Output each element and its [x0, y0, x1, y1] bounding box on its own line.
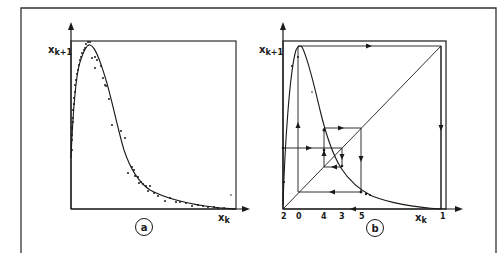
panel-b-x-label-sub: k: [421, 216, 426, 225]
panel-a: [68, 22, 250, 212]
panel-a-data-points: [71, 41, 232, 209]
panel-a-y-label: xk+1: [48, 45, 72, 55]
panel-b-tick-1: 1: [440, 213, 446, 221]
panel-a-y-label-sub: k+1: [54, 48, 72, 57]
panel-a-tag: a: [135, 218, 153, 236]
panel-b-tag: b: [366, 219, 384, 237]
arrow-down-icon: [439, 125, 444, 131]
arrow-left-icon: [331, 165, 337, 170]
panel-b-iterate-points: [282, 56, 371, 196]
arrow-left-icon: [350, 207, 356, 212]
arrow-down-icon: [340, 154, 345, 160]
arrow-right-icon: [338, 126, 344, 131]
panel-b-tick-2: 2: [281, 213, 287, 221]
panel-b-y-label-sub: k+1: [265, 48, 283, 57]
panel-b-tick-3: 3: [339, 213, 345, 221]
panel-a-x-arrow-icon: [242, 206, 250, 212]
panel-a-x-label-sub: k: [224, 216, 229, 225]
panel-b-diagonal: [283, 46, 441, 209]
panel-b-direction-arrows: [296, 44, 444, 212]
panel-a-fitted-curve: [71, 45, 236, 209]
panel-b-x-arrow-icon: [455, 206, 463, 212]
panel-b: [280, 22, 463, 212]
arrow-right-icon: [366, 44, 372, 49]
panel-a-y-arrow-icon: [68, 22, 74, 30]
panel-b-tick-4: 4: [321, 213, 327, 221]
arrow-right-icon: [306, 146, 312, 151]
panel-a-box: [71, 41, 236, 209]
arrow-left-icon: [329, 190, 335, 195]
panel-b-x-label: xk: [415, 213, 427, 223]
panel-b-y-label: xk+1: [259, 45, 283, 55]
arrow-up-icon: [296, 122, 301, 128]
arrow-down-icon: [359, 156, 364, 162]
panel-a-x-label: xk: [218, 213, 230, 223]
panel-b-y-arrow-icon: [280, 22, 286, 30]
panel-b-tick-0: 0: [296, 213, 302, 221]
panel-b-tick-5: 5: [359, 213, 365, 221]
